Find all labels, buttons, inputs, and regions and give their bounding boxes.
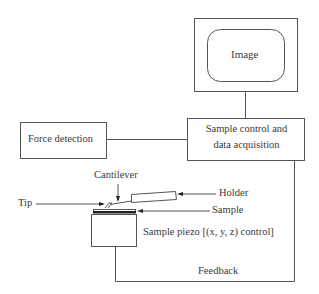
- feedback-line: [116, 161, 295, 282]
- holder-block: [132, 192, 177, 203]
- sample-control-label-line1: Sample control and: [188, 123, 305, 134]
- holder-label: Holder: [219, 187, 248, 198]
- sample-label: Sample: [212, 204, 244, 215]
- holder-arrowhead: [177, 192, 183, 196]
- sample-control-label-line2: data acquisition: [188, 139, 305, 150]
- tip-label: Tip: [18, 197, 32, 208]
- piezo-box: [92, 215, 137, 247]
- monitor-label: Image: [231, 48, 258, 60]
- cantilever-arrowhead: [116, 196, 120, 202]
- cantilever-label: Cantilever: [94, 169, 138, 180]
- cantilever-arm: [110, 201, 132, 205]
- piezo-label: Sample piezo [(x, y, z) control]: [143, 226, 274, 237]
- sample-arrowhead: [137, 209, 143, 213]
- tip-arrowhead: [99, 202, 105, 206]
- force-detection-label: Force detection: [28, 133, 93, 144]
- tip-shape: [105, 203, 112, 208]
- feedback-label: Feedback: [198, 265, 238, 276]
- sample-dark-layer: [93, 211, 136, 214]
